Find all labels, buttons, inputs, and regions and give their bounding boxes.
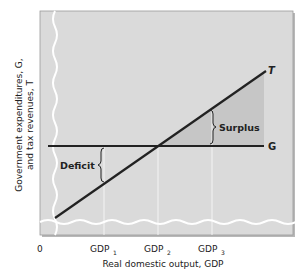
x-tick-gdp3: GDP 3 [198, 244, 225, 256]
deficit-label: Deficit [60, 160, 95, 171]
x-axis-title: Real domestic output, GDP [102, 259, 224, 269]
origin-label: 0 [37, 244, 43, 254]
svg-text:1: 1 [113, 249, 117, 256]
t-label: T [268, 65, 276, 76]
svg-text:GDP: GDP [198, 244, 218, 254]
g-label: G [268, 141, 276, 152]
svg-text:3: 3 [221, 249, 225, 256]
surplus-label: Surplus [219, 122, 260, 133]
y-axis-title: Government expenditures, G, and tax reve… [14, 58, 35, 191]
svg-text:GDP: GDP [90, 244, 110, 254]
svg-text:Government expenditures, G,: Government expenditures, G, [14, 58, 24, 191]
svg-text:2: 2 [167, 249, 171, 256]
x-tick-gdp1: GDP 1 [90, 244, 117, 256]
svg-text:and tax revenues, T: and tax revenues, T [25, 80, 35, 170]
svg-text:GDP: GDP [144, 244, 164, 254]
x-tick-gdp2: GDP 2 [144, 244, 171, 256]
chart: T G Deficit Surplus 0 GDP 1 GDP 2 GDP 3 … [0, 0, 308, 275]
